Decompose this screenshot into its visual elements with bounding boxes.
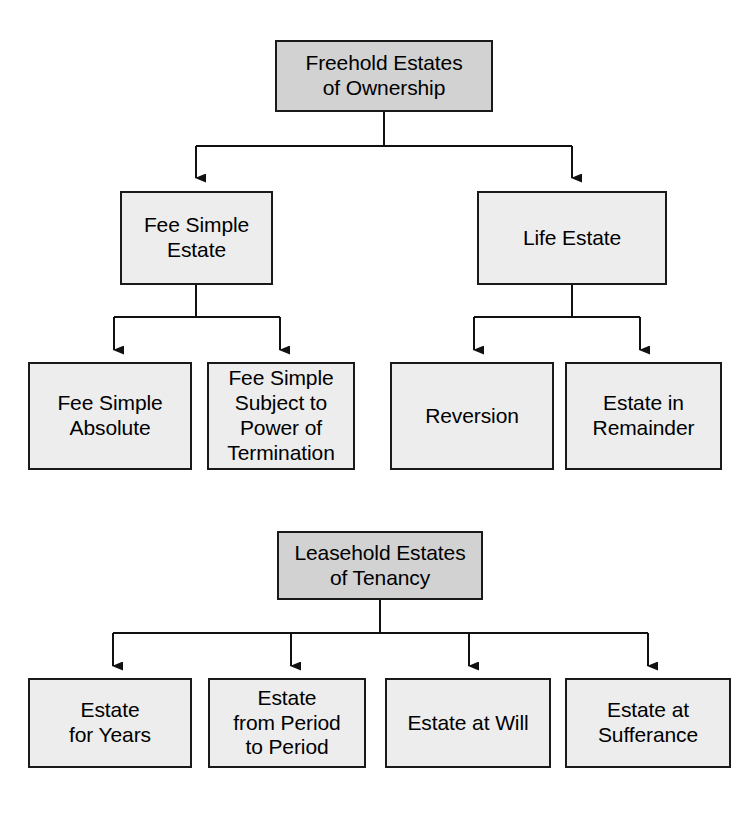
node-fee-simple-subject-to-power-of-termination[interactable]: Fee Simple Subject to Power of Terminati… xyxy=(207,362,355,470)
node-fee-simple-absolute[interactable]: Fee Simple Absolute xyxy=(28,362,192,470)
node-estate-for-years[interactable]: Estate for Years xyxy=(28,678,192,768)
node-label: Fee Simple Absolute xyxy=(57,391,162,441)
node-label: Reversion xyxy=(425,404,519,429)
node-label: Freehold Estates of Ownership xyxy=(305,51,462,101)
node-label: Estate from Period to Period xyxy=(233,686,340,760)
diagram-canvas: Freehold Estates of Ownership Fee Simple… xyxy=(0,0,756,813)
node-estate-at-sufferance[interactable]: Estate at Sufferance xyxy=(565,678,731,768)
node-label: Estate in Remainder xyxy=(593,391,695,441)
node-label: Fee Simple Estate xyxy=(144,213,249,263)
node-label: Estate at Will xyxy=(407,711,528,736)
node-reversion[interactable]: Reversion xyxy=(390,362,554,470)
node-label: Leasehold Estates of Tenancy xyxy=(294,541,465,591)
node-freehold-estates-of-ownership[interactable]: Freehold Estates of Ownership xyxy=(275,40,493,112)
node-fee-simple-estate[interactable]: Fee Simple Estate xyxy=(120,191,273,285)
node-leasehold-estates-of-tenancy[interactable]: Leasehold Estates of Tenancy xyxy=(277,531,483,600)
node-label: Life Estate xyxy=(523,226,621,251)
node-life-estate[interactable]: Life Estate xyxy=(477,191,667,285)
node-label: Fee Simple Subject to Power of Terminati… xyxy=(227,366,334,465)
node-label: Estate for Years xyxy=(69,698,151,748)
node-estate-in-remainder[interactable]: Estate in Remainder xyxy=(565,362,722,470)
node-estate-from-period-to-period[interactable]: Estate from Period to Period xyxy=(208,678,366,768)
node-estate-at-will[interactable]: Estate at Will xyxy=(385,678,551,768)
node-label: Estate at Sufferance xyxy=(598,698,698,748)
